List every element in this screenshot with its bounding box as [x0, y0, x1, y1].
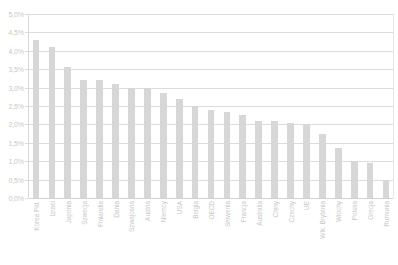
bar-slot: [192, 14, 199, 198]
x-axis-tick-label: UE: [303, 201, 310, 210]
x-axis-tick-label: Słowenia: [224, 201, 231, 227]
x-axis-tick-label: Chiny: [272, 201, 279, 217]
x-axis-tick: Dania: [108, 200, 124, 265]
x-axis-tick: Francja: [235, 200, 251, 265]
bar[interactable]: [239, 115, 246, 198]
x-axis-tick-label: Grecja: [367, 201, 374, 220]
y-axis-tick-label: 4,5%: [8, 29, 24, 36]
bar[interactable]: [112, 84, 119, 198]
bar[interactable]: [128, 88, 135, 198]
bar[interactable]: [80, 80, 87, 198]
x-axis-tick-label: Wlk. Brytania: [319, 201, 326, 239]
x-axis-tick: Belgia: [187, 200, 203, 265]
x-axis-tick: Szwajcaria: [123, 200, 139, 265]
bar[interactable]: [351, 161, 358, 198]
x-axis-tick: Izrael: [44, 200, 60, 265]
bar-slot: [224, 14, 231, 198]
x-axis: Korea Płd.IzraelJaponiaSzwecjaFinlandiaD…: [28, 200, 394, 265]
bar-slot: [303, 14, 310, 198]
x-axis-tick: Korea Płd.: [28, 200, 44, 265]
x-axis-tick: Słowenia: [219, 200, 235, 265]
x-axis-tick: OECD: [203, 200, 219, 265]
axis-baseline: [29, 198, 393, 199]
y-axis-tick-mark: [25, 198, 28, 199]
y-axis: 5,0%4,5%4,0%3,5%3,0%2,5%2,0%1,5%1,0%0,5%…: [0, 14, 26, 198]
y-axis-tick-label: 4,0%: [8, 47, 24, 54]
bar-slot: [144, 14, 151, 198]
bar[interactable]: [208, 110, 215, 198]
x-axis-tick: Rumunia: [378, 200, 394, 265]
bar[interactable]: [144, 88, 151, 198]
bar-slot: [271, 14, 278, 198]
bar[interactable]: [176, 99, 183, 198]
x-axis-tick-label: Izrael: [49, 201, 56, 217]
x-axis-tick-label: Włochy: [335, 201, 342, 222]
bar[interactable]: [287, 123, 294, 198]
x-axis-tick: Czechy: [283, 200, 299, 265]
bar[interactable]: [383, 180, 390, 198]
bar[interactable]: [271, 121, 278, 198]
x-axis-tick-label: Japonia: [65, 201, 72, 223]
bar[interactable]: [64, 67, 71, 198]
y-axis-tick-label: 3,0%: [8, 84, 24, 91]
bar[interactable]: [49, 47, 56, 198]
bar-slot: [255, 14, 262, 198]
x-axis-tick-label: Niemcy: [160, 201, 167, 222]
x-axis-tick-label: OECD: [208, 201, 215, 220]
x-axis-tick-label: Korea Płd.: [33, 201, 40, 231]
bar[interactable]: [335, 148, 342, 198]
x-axis-tick: Grecja: [362, 200, 378, 265]
bar-slot: [208, 14, 215, 198]
bar[interactable]: [160, 93, 167, 198]
x-axis-tick-label: Francja: [240, 201, 247, 222]
bar-slot: [33, 14, 40, 198]
x-axis-tick-label: Rumunia: [383, 201, 390, 227]
bar[interactable]: [255, 121, 262, 198]
x-axis-tick: Polska: [346, 200, 362, 265]
x-axis-tick-label: Polska: [351, 201, 358, 220]
bar-slot: [112, 14, 119, 198]
x-axis-tick-label: Dania: [113, 201, 120, 218]
y-axis-tick-label: 0,5%: [8, 176, 24, 183]
x-axis-tick: Włochy: [330, 200, 346, 265]
bar-slot: [319, 14, 326, 198]
bar-slot: [335, 14, 342, 198]
x-axis-tick: Wlk. Brytania: [314, 200, 330, 265]
x-axis-tick-label: Finlandia: [97, 201, 104, 227]
bar-slot: [49, 14, 56, 198]
x-axis-tick: Finlandia: [92, 200, 108, 265]
y-axis-tick-label: 1,5%: [8, 139, 24, 146]
bar-slot: [176, 14, 183, 198]
x-axis-tick: Szwecja: [76, 200, 92, 265]
x-axis-tick-label: Szwajcaria: [128, 201, 135, 232]
y-axis-tick-label: 5,0%: [8, 11, 24, 18]
x-axis-tick: UE: [299, 200, 315, 265]
bar[interactable]: [33, 40, 40, 198]
bar-slot: [287, 14, 294, 198]
x-axis-tick: Austria: [139, 200, 155, 265]
bar-chart: 5,0%4,5%4,0%3,5%3,0%2,5%2,0%1,5%1,0%0,5%…: [0, 0, 398, 265]
bar-slot: [239, 14, 246, 198]
bar-slot: [383, 14, 390, 198]
bars-layer: [28, 14, 394, 198]
x-axis-tick-label: Szwecja: [81, 201, 88, 225]
bar-slot: [80, 14, 87, 198]
x-axis-tick: Chiny: [267, 200, 283, 265]
y-axis-tick-label: 2,0%: [8, 121, 24, 128]
bar-slot: [64, 14, 71, 198]
bar-slot: [96, 14, 103, 198]
bar-slot: [351, 14, 358, 198]
bar-slot: [367, 14, 374, 198]
x-axis-tick-label: Czechy: [288, 201, 295, 222]
bar[interactable]: [319, 134, 326, 198]
x-axis-tick: Niemcy: [155, 200, 171, 265]
y-axis-tick-label: 0,0%: [8, 195, 24, 202]
x-axis-tick-label: USA: [176, 201, 183, 214]
bar[interactable]: [96, 80, 103, 198]
bar[interactable]: [224, 112, 231, 198]
bar[interactable]: [367, 163, 374, 198]
x-axis-tick: Japonia: [60, 200, 76, 265]
bar[interactable]: [192, 106, 199, 198]
bar[interactable]: [303, 124, 310, 198]
bar-slot: [160, 14, 167, 198]
